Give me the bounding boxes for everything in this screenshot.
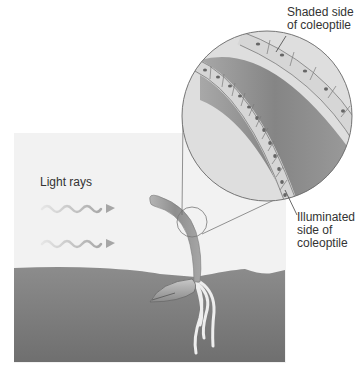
illuminated-side-label: Illuminated side of coleoptile: [297, 211, 355, 250]
light-rays-label: Light rays: [40, 176, 92, 189]
light-rays-text: Light rays: [40, 176, 92, 189]
illuminated-label-line3: coleoptile: [297, 237, 355, 250]
shaded-label-line2: of coleoptile: [287, 19, 354, 32]
phototropism-diagram: Light rays Shaded side of coleoptile Ill…: [0, 0, 364, 375]
soil: [14, 267, 285, 362]
shaded-side-label: Shaded side of coleoptile: [287, 6, 354, 32]
